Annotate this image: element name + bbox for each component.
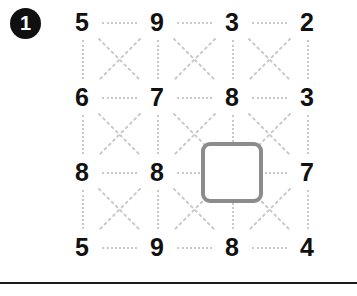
grid-digit: 5 bbox=[62, 230, 102, 264]
grid-connector-vertical bbox=[307, 40, 309, 79]
grid-digit: 7 bbox=[287, 155, 327, 189]
grid-digit: 6 bbox=[62, 80, 102, 114]
grid-connector-horizontal bbox=[102, 247, 137, 249]
grid-digit: 3 bbox=[212, 5, 252, 39]
grid-digit: 7 bbox=[137, 80, 177, 114]
grid-connector-vertical bbox=[157, 190, 159, 229]
grid-connector-vertical bbox=[82, 115, 84, 154]
grid-connector-vertical bbox=[307, 115, 309, 154]
grid-digit: 8 bbox=[212, 230, 252, 264]
grid-digit: 9 bbox=[137, 230, 177, 264]
grid-connector-horizontal bbox=[102, 22, 137, 24]
grid-digit: 8 bbox=[62, 155, 102, 189]
grid-connector-vertical bbox=[157, 115, 159, 154]
number-grid: 593267838875984 bbox=[82, 22, 308, 247]
grid-connector-horizontal bbox=[177, 97, 212, 99]
grid-digit: 5 bbox=[62, 5, 102, 39]
section-divider bbox=[0, 282, 357, 284]
grid-connector-horizontal bbox=[252, 22, 287, 24]
grid-connector-vertical bbox=[82, 190, 84, 229]
grid-digit: 8 bbox=[137, 155, 177, 189]
grid-connector-horizontal bbox=[177, 22, 212, 24]
grid-digit: 8 bbox=[212, 80, 252, 114]
grid-connector-vertical bbox=[157, 40, 159, 79]
answer-input-box[interactable] bbox=[201, 142, 263, 203]
exercise-number-badge: 1 bbox=[10, 8, 41, 39]
grid-connector-horizontal bbox=[252, 247, 287, 249]
grid-digit: 4 bbox=[287, 230, 327, 264]
grid-connector-horizontal bbox=[102, 97, 137, 99]
worksheet-page: 1 593267838875984 bbox=[0, 0, 357, 296]
grid-connector-horizontal bbox=[177, 247, 212, 249]
grid-digit: 2 bbox=[287, 5, 327, 39]
grid-connector-vertical bbox=[82, 40, 84, 79]
grid-digit: 3 bbox=[287, 80, 327, 114]
grid-connector-horizontal bbox=[252, 97, 287, 99]
grid-connector-vertical bbox=[307, 190, 309, 229]
grid-connector-vertical bbox=[232, 40, 234, 79]
diagonal-connectors-layer bbox=[82, 22, 308, 247]
grid-digit: 9 bbox=[137, 5, 177, 39]
grid-connector-horizontal bbox=[102, 172, 137, 174]
